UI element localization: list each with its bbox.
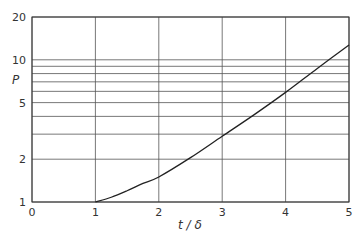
- x-axis-label: t / δ: [178, 218, 202, 232]
- plot-frame: [32, 17, 349, 202]
- chart: 012345 1251020 P t / δ: [0, 0, 360, 243]
- y-tick-label: 5: [19, 97, 26, 110]
- gridlines: [32, 17, 349, 202]
- y-tick-labels: 1251020: [12, 11, 26, 209]
- x-tick-label: 5: [346, 206, 353, 219]
- y-axis-label: P: [12, 73, 20, 87]
- y-tick-label: 1: [19, 196, 26, 209]
- x-tick-label: 4: [282, 206, 289, 219]
- x-tick-label: 3: [219, 206, 226, 219]
- y-tick-label: 2: [19, 153, 26, 166]
- y-tick-label: 20: [12, 11, 26, 24]
- x-tick-label: 1: [92, 206, 99, 219]
- x-tick-label: 2: [155, 206, 162, 219]
- x-tick-label: 0: [29, 206, 36, 219]
- y-tick-label: 10: [12, 54, 26, 67]
